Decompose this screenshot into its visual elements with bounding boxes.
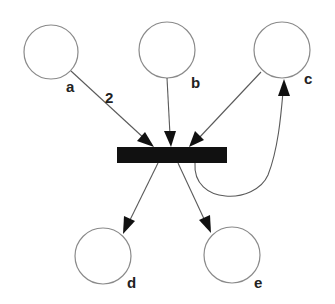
- place-c-label: c: [304, 70, 312, 87]
- transition-t1[interactable]: [117, 147, 227, 163]
- arc-b-t1-arrowhead: [164, 131, 176, 147]
- place-e[interactable]: [204, 227, 260, 283]
- arc-b-t1: [167, 78, 170, 135]
- arc-c-t1-arrowhead: [189, 131, 204, 147]
- arc-t1-c-arrowhead: [278, 79, 290, 96]
- place-e-label: e: [254, 274, 262, 291]
- place-a[interactable]: [24, 25, 78, 79]
- place-c[interactable]: [254, 22, 310, 78]
- arc-t1-e: [178, 163, 205, 221]
- arc-c-t1: [198, 72, 261, 139]
- place-d[interactable]: [75, 228, 131, 284]
- place-d-label: d: [127, 274, 136, 291]
- petri-net-diagram: a 2 b c d e: [0, 0, 335, 304]
- arc-t1-d: [129, 163, 158, 222]
- arc-t1-c: [195, 92, 283, 196]
- arc-a-t1-weight: 2: [105, 89, 113, 106]
- arc-t1-d-arrowhead: [123, 216, 135, 234]
- place-b[interactable]: [139, 22, 195, 78]
- arc-t1-e-arrowhead: [199, 215, 211, 233]
- place-a-label: a: [66, 78, 75, 95]
- place-b-label: b: [191, 74, 200, 91]
